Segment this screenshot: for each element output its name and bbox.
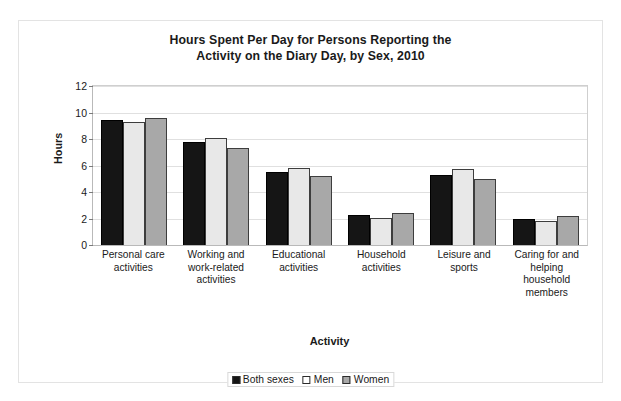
bar[interactable] (430, 175, 452, 245)
legend-item[interactable]: Both sexes (232, 374, 294, 385)
bar[interactable] (370, 218, 392, 245)
y-tick-label-4: 4 (81, 186, 87, 198)
x-tick-label: Leisure andsports (423, 249, 506, 299)
x-tick-label: Caring for andhelpinghouseholdmembers (505, 249, 588, 299)
bar-groups (93, 86, 587, 245)
bar-group (258, 86, 340, 245)
bar[interactable] (227, 148, 249, 245)
x-tick-label-line: Household (342, 249, 421, 262)
x-tick-label-line: household (507, 274, 586, 287)
bar[interactable] (474, 179, 496, 245)
x-tick-label-line: activities (342, 262, 421, 275)
x-tick-label-line: Personal care (94, 249, 173, 262)
x-tick-label-line: Educational (259, 249, 338, 262)
y-tick-label-12: 12 (75, 80, 87, 92)
x-tick-label-line: Working and (177, 249, 256, 262)
bar[interactable] (513, 219, 535, 246)
chart-legend: Both sexesMenWomen (227, 372, 394, 387)
bar[interactable] (310, 176, 332, 245)
legend-label: Women (354, 374, 389, 385)
bar[interactable] (266, 172, 288, 245)
y-tick-mark-0 (89, 245, 93, 246)
bar-group (93, 86, 175, 245)
x-axis-tick-labels: Personal careactivitiesWorking andwork-r… (92, 249, 588, 299)
bar[interactable] (288, 168, 310, 246)
y-tick-label-0: 0 (81, 239, 87, 251)
chart-title: Hours Spent Per Day for Persons Reportin… (19, 32, 602, 64)
plot-area: 024681012 (92, 85, 588, 246)
x-tick-label-line: members (507, 287, 586, 300)
legend-swatch-icon (343, 376, 351, 384)
y-tick-label-2: 2 (81, 213, 87, 225)
legend-swatch-icon (303, 376, 311, 384)
bar-group (340, 86, 422, 245)
x-tick-label-line: Caring for and (507, 249, 586, 262)
chart-frame: Hours Spent Per Day for Persons Reportin… (18, 20, 603, 383)
x-tick-label-line: activities (259, 262, 338, 275)
x-tick-label-line: activities (94, 262, 173, 275)
legend-label: Men (314, 374, 334, 385)
legend-item[interactable]: Women (343, 374, 389, 385)
legend-label: Both sexes (243, 374, 294, 385)
x-axis-title: Activity (19, 335, 621, 347)
bar[interactable] (101, 120, 123, 245)
bar-group (505, 86, 587, 245)
bar[interactable] (452, 169, 474, 245)
legend-item[interactable]: Men (303, 374, 334, 385)
bar[interactable] (557, 216, 579, 245)
bar[interactable] (392, 213, 414, 245)
legend-swatch-icon (232, 376, 240, 384)
bar[interactable] (145, 118, 167, 245)
y-axis-title: Hours (52, 133, 64, 164)
x-tick-label-line: sports (425, 262, 504, 275)
bar[interactable] (205, 138, 227, 245)
bar-group (175, 86, 257, 245)
x-tick-label-line: helping (507, 262, 586, 275)
x-tick-label-line: activities (177, 274, 256, 287)
y-tick-label-8: 8 (81, 133, 87, 145)
bar[interactable] (123, 122, 145, 245)
bar[interactable] (183, 142, 205, 245)
x-tick-label: Working andwork-relatedactivities (175, 249, 258, 299)
chart-title-line-2: Activity on the Diary Day, by Sex, 2010 (19, 48, 602, 64)
chart-title-line-1: Hours Spent Per Day for Persons Reportin… (19, 32, 602, 48)
bar[interactable] (535, 221, 557, 245)
x-tick-label: Personal careactivities (92, 249, 175, 299)
x-tick-label: Householdactivities (340, 249, 423, 299)
bar-group (422, 86, 504, 245)
x-tick-label: Educationalactivities (257, 249, 340, 299)
x-tick-label-line: Leisure and (425, 249, 504, 262)
y-tick-label-6: 6 (81, 160, 87, 172)
y-tick-label-10: 10 (75, 107, 87, 119)
x-tick-label-line: work-related (177, 262, 256, 275)
bar[interactable] (348, 215, 370, 245)
